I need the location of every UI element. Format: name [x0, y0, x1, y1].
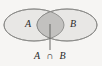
caption-right-operand: B: [59, 50, 65, 61]
set-b-label: B: [70, 18, 76, 29]
set-a-label: A: [24, 18, 32, 29]
intersection-operator-icon: ∩: [46, 50, 54, 61]
intersection-caption: A ∩ B: [33, 50, 66, 61]
venn-diagram-figure: A B A ∩ B: [0, 0, 102, 66]
venn-diagram-canvas: A B A ∩ B: [0, 0, 102, 66]
caption-left-operand: A: [33, 50, 41, 61]
